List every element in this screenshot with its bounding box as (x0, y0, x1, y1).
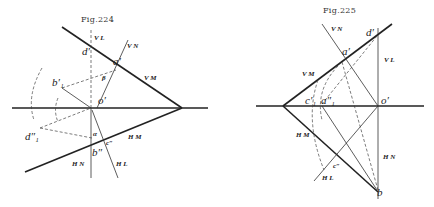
label-hl: H L (115, 160, 127, 168)
construction-line (62, 70, 116, 88)
construction-line (40, 108, 91, 128)
point-o-prime: o′ (381, 94, 390, 106)
point-c-dprime: c″ (333, 162, 340, 170)
point-d1-dprime: d″₁ (25, 130, 39, 142)
point-b-dprime: b″ (92, 146, 103, 158)
figure-225: Fig.225 V N V L V M H M H N H L d′ a′ c′… (256, 6, 424, 199)
point-c1-prime: c′₁ (305, 94, 316, 106)
point-d-prime: d′ (366, 26, 375, 38)
diagram-canvas: Fig.224 V L V N V M H M H N H L d′ a′ b′… (0, 0, 434, 207)
construction-arc (56, 98, 59, 122)
construction-line (40, 128, 92, 138)
label-vl: V L (94, 34, 105, 42)
figure-title: Fig.225 (323, 6, 356, 15)
label-vn: V N (331, 25, 343, 33)
point-a1-dprime: a″₁ (321, 94, 335, 106)
construction-arc (320, 66, 338, 120)
trace-vm (62, 27, 182, 108)
label-vm: V M (144, 74, 157, 82)
point-a-prime: a′ (113, 55, 122, 67)
construction-line (342, 62, 378, 190)
construction-line (62, 88, 91, 108)
angle-alpha: α (93, 130, 97, 138)
point-b: b (377, 186, 383, 198)
label-hn: H N (71, 160, 85, 168)
point-o-prime: o′ (98, 94, 107, 106)
trace-hl (92, 110, 118, 178)
label-vm: V M (302, 70, 315, 78)
label-vn: V N (127, 42, 139, 50)
figure-title: Fig.224 (81, 15, 114, 24)
point-d-prime: d′ (82, 45, 91, 57)
label-hm: H M (127, 133, 142, 141)
label-hm: H M (295, 131, 310, 139)
angle-beta: β (101, 74, 106, 82)
point-a-prime: a′ (342, 45, 351, 57)
point-c-dprime: c″ (106, 139, 113, 147)
trace-vm (283, 24, 392, 106)
label-vl: V L (384, 56, 395, 64)
label-hn: H N (382, 153, 396, 161)
construction-arc (31, 68, 42, 120)
point-b1-prime: b′₁ (52, 76, 64, 88)
label-hl: H L (321, 174, 333, 182)
figure-224: Fig.224 V L V N V M H M H N H L d′ a′ b′… (12, 15, 208, 178)
